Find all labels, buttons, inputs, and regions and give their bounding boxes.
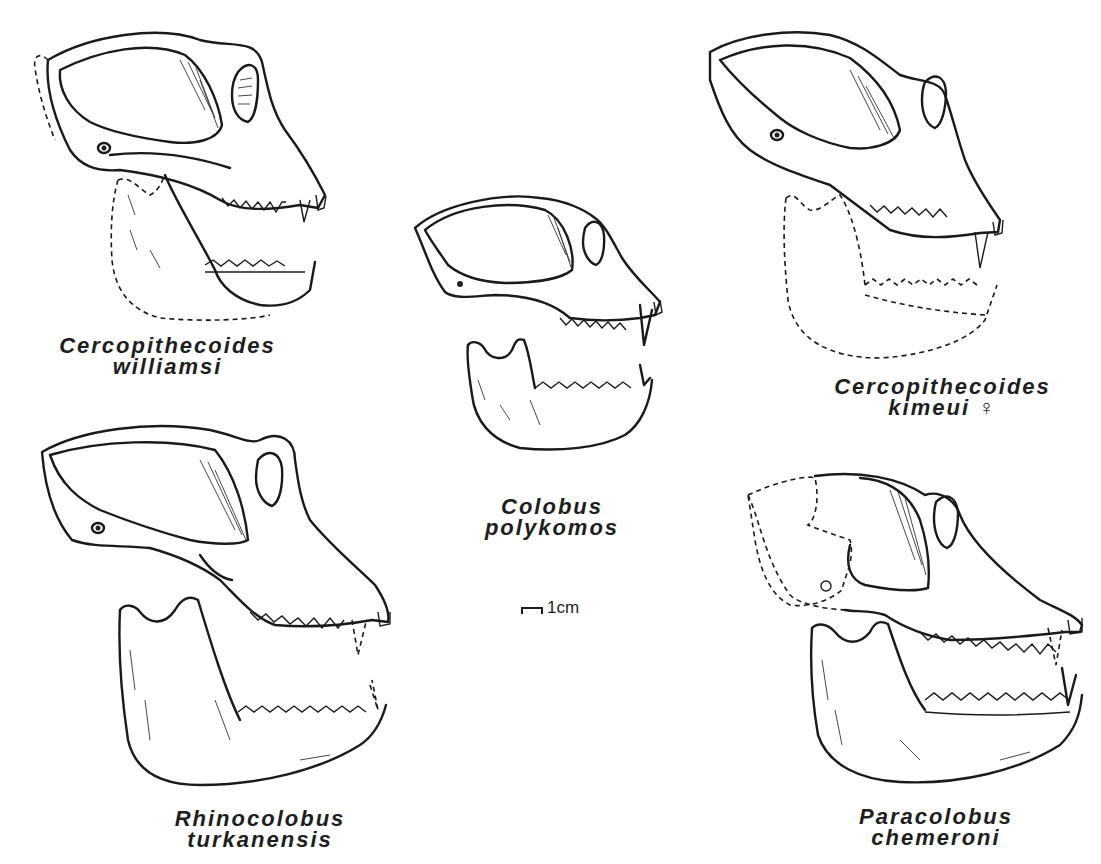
skull-cercopithecoides-kimeui	[710, 32, 1003, 358]
female-symbol-icon: ♀	[978, 395, 997, 420]
label-genus: Paracolobus	[826, 806, 1046, 827]
label-species: polykomos	[462, 517, 642, 538]
label-cercopithecoides-williamsi: Cercopithecoides williamsi	[25, 335, 310, 377]
label-genus: Cercopithecoides	[25, 335, 310, 356]
label-genus: Colobus	[462, 496, 642, 517]
skull-cercopithecoides-williamsi	[35, 33, 326, 320]
skull-colobus-polykomos	[415, 197, 662, 450]
label-species: kimeui	[888, 395, 970, 420]
label-species: turkanensis	[140, 829, 380, 850]
label-genus: Cercopithecoides	[800, 376, 1085, 397]
label-species: chemeroni	[826, 827, 1046, 848]
label-paracolobus-chemeroni: Paracolobus chemeroni	[826, 806, 1046, 848]
label-species: williamsi	[25, 356, 310, 377]
scale-bar-icon	[521, 607, 543, 614]
scale-bar: 1cm	[521, 598, 579, 618]
label-genus: Rhinocolobus	[140, 808, 380, 829]
skull-paracolobus-chemeroni	[748, 474, 1082, 782]
label-colobus-polykomos: Colobus polykomos	[462, 496, 642, 538]
label-cercopithecoides-kimeui: Cercopithecoides kimeui ♀	[800, 376, 1085, 418]
skull-rhinocolobus-turkanensis	[42, 426, 390, 785]
label-rhinocolobus-turkanensis: Rhinocolobus turkanensis	[140, 808, 380, 850]
skull-plate: Cercopithecoides williamsi Colobus polyk…	[0, 0, 1101, 864]
skull-illustrations	[0, 0, 1101, 864]
scale-bar-label: 1cm	[547, 598, 579, 618]
label-species-line: kimeui ♀	[800, 397, 1085, 418]
